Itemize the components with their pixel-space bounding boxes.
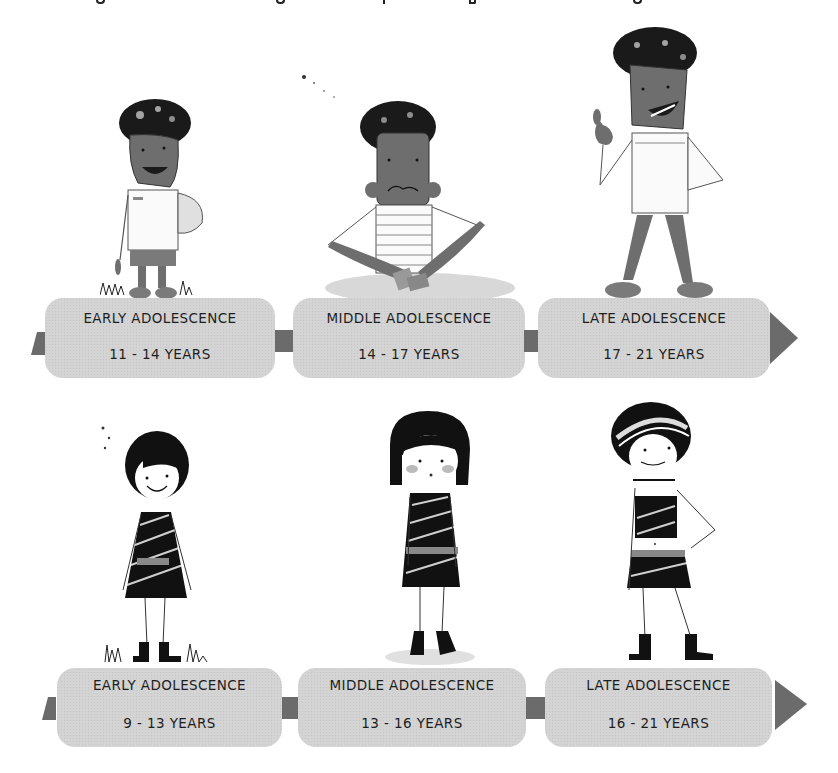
stage-box-girls-late: LATE ADOLESCENCE 16 - 21 YEARS (545, 668, 772, 747)
timeline-arrow-icon (775, 680, 809, 732)
timeline-connector (526, 697, 546, 719)
figure-girl-late (595, 398, 745, 670)
timeline-arrow-icon (770, 312, 800, 364)
stage-name: MIDDLE ADOLESCENCE (298, 677, 526, 693)
figure-boy-late (575, 25, 745, 305)
stage-age-range: 14 - 17 YEARS (293, 346, 525, 362)
figure-girl-early (95, 420, 245, 670)
timeline-connector (282, 697, 299, 719)
stage-name: EARLY ADOLESCENCE (45, 310, 275, 326)
timeline-start-stub (31, 332, 45, 355)
figure-girl-middle (360, 405, 500, 670)
stage-box-girls-early: EARLY ADOLESCENCE 9 - 13 YEARS (57, 668, 282, 747)
stage-box-girls-middle: MIDDLE ADOLESCENCE 13 - 16 YEARS (298, 668, 526, 747)
timeline-connector (275, 330, 293, 352)
stage-name: LATE ADOLESCENCE (545, 677, 772, 693)
clipped-caption-line (0, 0, 838, 10)
stage-box-boys-early: EARLY ADOLESCENCE 11 - 14 YEARS (45, 298, 275, 378)
figure-boy-middle (300, 65, 540, 305)
stage-name: EARLY ADOLESCENCE (57, 677, 282, 693)
stage-name: MIDDLE ADOLESCENCE (293, 310, 525, 326)
timeline-connector (524, 330, 539, 352)
timeline-start-stub (42, 697, 56, 720)
stage-box-boys-late: LATE ADOLESCENCE 17 - 21 YEARS (538, 298, 770, 378)
stage-age-range: 9 - 13 YEARS (57, 715, 282, 731)
stage-age-range: 13 - 16 YEARS (298, 715, 526, 731)
stage-age-range: 11 - 14 YEARS (45, 346, 275, 362)
stage-name: LATE ADOLESCENCE (538, 310, 770, 326)
stage-age-range: 17 - 21 YEARS (538, 346, 770, 362)
stage-age-range: 16 - 21 YEARS (545, 715, 772, 731)
stage-box-boys-middle: MIDDLE ADOLESCENCE 14 - 17 YEARS (293, 298, 525, 378)
figure-boy-early (100, 95, 240, 305)
